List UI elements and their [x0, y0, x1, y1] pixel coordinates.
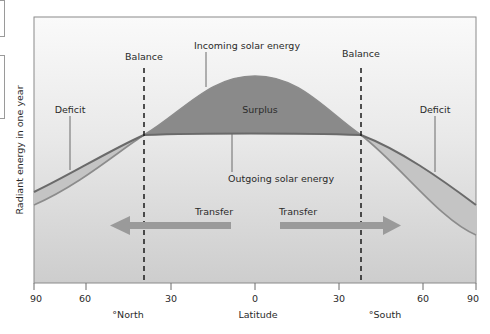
transfer-label-north: Transfer [194, 206, 233, 217]
x-tick-label: 0 [252, 293, 258, 304]
x-tick-label: 90 [467, 293, 479, 304]
energy-balance-diagram: Balance Balance Incoming solar energy Su… [0, 0, 490, 334]
x-tick-label: 30 [333, 293, 345, 304]
x-tick-label: 90 [30, 293, 42, 304]
deficit-label-north: Deficit [55, 104, 86, 115]
balance-label-south: Balance [342, 48, 380, 59]
incoming-label: Incoming solar energy [194, 40, 300, 51]
balance-label-north: Balance [125, 51, 163, 62]
north-label: °North [112, 309, 143, 320]
x-tick-label: 30 [165, 293, 177, 304]
x-axis-ticks [34, 283, 476, 290]
outgoing-label: Outgoing solar energy [228, 173, 334, 184]
x-tick-label: 60 [79, 293, 91, 304]
x-tick-label: 60 [417, 293, 429, 304]
deficit-label-south: Deficit [420, 104, 451, 115]
surplus-label: Surplus [242, 104, 278, 115]
plot-area [34, 17, 476, 283]
transfer-label-south: Transfer [278, 206, 317, 217]
south-label: °South [369, 309, 401, 320]
y-axis-label: Radiant energy in one year [14, 85, 25, 214]
x-axis-label: Latitude [238, 309, 277, 320]
